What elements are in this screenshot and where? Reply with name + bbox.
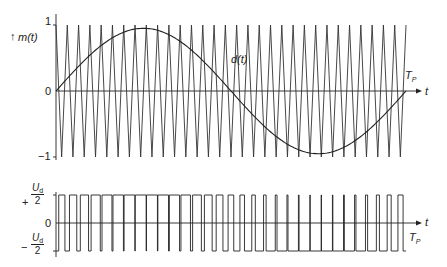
- tp-label-top: TP: [405, 70, 416, 83]
- bottom-zero-label: 0: [45, 218, 51, 229]
- plus-sign: +: [22, 196, 28, 208]
- y-axis-label-m: m(t): [18, 32, 38, 43]
- t-axis-label-bottom: t: [425, 217, 428, 228]
- bottom-axes: [53, 192, 422, 257]
- y-tick-zero: 0: [45, 86, 51, 97]
- plus-ud-half-label: Ud 2: [31, 183, 44, 206]
- pwm-diagram: [0, 0, 447, 267]
- y-axis-arrow-icon: ↑: [10, 31, 16, 42]
- y-tick-one: 1: [45, 16, 51, 27]
- t-axis-label-top: t: [425, 86, 428, 97]
- minus-ud-half-label: Ud 2: [31, 233, 44, 256]
- tp-label-bottom: TP: [409, 232, 420, 245]
- minus-sign: −: [21, 241, 27, 253]
- y-tick-minus-one: −1: [38, 151, 51, 162]
- d-label: d(t): [231, 54, 248, 65]
